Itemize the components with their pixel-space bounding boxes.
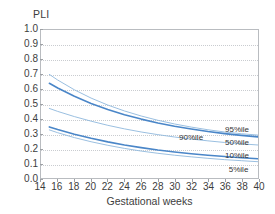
y-axis-tickmark bbox=[40, 134, 43, 135]
x-axis-title: Gestational weeks bbox=[40, 195, 259, 207]
y-axis-tickmark bbox=[40, 119, 43, 120]
x-axis-tickmark bbox=[141, 179, 142, 182]
x-axis-tick-labels: 1416182022242628303234363840 bbox=[40, 181, 259, 195]
y-axis-tick-label: 0.5 bbox=[16, 99, 38, 109]
x-axis-tickmark bbox=[57, 179, 58, 182]
y-axis-tick-label: 0.8 bbox=[16, 54, 38, 64]
x-axis-tick-label: 40 bbox=[249, 181, 269, 192]
y-axis-tickmark bbox=[40, 89, 43, 90]
y-axis-title: PLI bbox=[33, 8, 49, 20]
series-label-90pctile: 90%ile bbox=[179, 133, 203, 142]
y-axis-tickmark bbox=[40, 29, 43, 30]
y-axis-tickmark bbox=[40, 149, 43, 150]
x-axis-tickmark bbox=[91, 179, 92, 182]
y-axis-tick-label: 0.1 bbox=[16, 159, 38, 169]
series-label-10pctile: 10%ile bbox=[225, 151, 249, 160]
x-axis-tickmark bbox=[208, 179, 209, 182]
series-label-95pctile: 95%ile bbox=[225, 125, 249, 134]
x-axis-tickmark bbox=[74, 179, 75, 182]
y-axis-tickmark bbox=[40, 74, 43, 75]
x-axis-tickmark bbox=[124, 179, 125, 182]
y-axis-tickmark bbox=[40, 164, 43, 165]
y-axis-tick-label: 1.0 bbox=[16, 24, 38, 34]
y-axis-tickmark bbox=[40, 59, 43, 60]
x-axis-tickmark bbox=[192, 179, 193, 182]
x-axis-tickmark bbox=[242, 179, 243, 182]
pli-percentile-chart: PLI 0.00.10.20.30.40.50.60.70.80.91.0 14… bbox=[0, 0, 275, 214]
y-axis-tickmark bbox=[40, 104, 43, 105]
y-axis-tick-label: 0.2 bbox=[16, 144, 38, 154]
y-axis-tick-labels: 0.00.10.20.30.40.50.60.70.80.91.0 bbox=[12, 29, 38, 179]
x-axis-tickmark bbox=[225, 179, 226, 182]
x-axis-tickmark bbox=[158, 179, 159, 182]
series-label-5pctile: 5%ile bbox=[229, 165, 249, 174]
x-axis-tickmark bbox=[259, 179, 260, 182]
x-axis-tickmark bbox=[40, 179, 41, 182]
x-axis-tickmark bbox=[107, 179, 108, 182]
y-axis-tick-label: 0.6 bbox=[16, 84, 38, 94]
y-axis-tick-label: 0.7 bbox=[16, 69, 38, 79]
y-axis-tick-label: 0.4 bbox=[16, 114, 38, 124]
y-axis-tick-label: 0.9 bbox=[16, 39, 38, 49]
y-axis-tickmark bbox=[40, 44, 43, 45]
y-axis-tick-label: 0.3 bbox=[16, 129, 38, 139]
x-axis-tickmark bbox=[175, 179, 176, 182]
series-label-50pctile: 50%ile bbox=[225, 138, 249, 147]
